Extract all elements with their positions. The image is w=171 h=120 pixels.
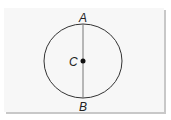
label-b: B	[79, 100, 87, 114]
center-point	[81, 59, 86, 64]
circle-diagram: A C B	[0, 0, 171, 120]
label-c: C	[69, 55, 78, 69]
label-a: A	[78, 11, 87, 25]
